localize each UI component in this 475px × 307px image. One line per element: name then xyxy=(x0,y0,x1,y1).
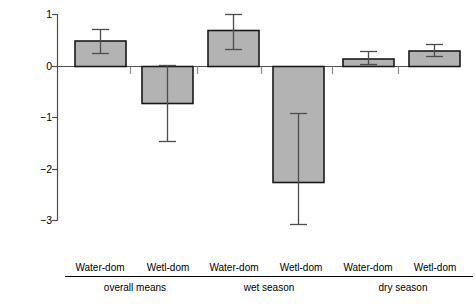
bar-group-wet-water-dom xyxy=(208,14,259,67)
bar-group-overall-water-dom xyxy=(75,29,126,67)
bar-group-overall-wetl-dom xyxy=(142,65,193,142)
x-group-label-overall-means: overall means xyxy=(65,282,205,293)
group-rule-dry-season xyxy=(333,276,473,277)
x-group-label-wet-season: wet season xyxy=(199,282,339,293)
bar-group-dry-wetl-dom xyxy=(409,44,460,67)
x-category-label-dry-wetl-dom: Wetl-dom xyxy=(395,262,475,273)
bar-group-wet-wetl-dom xyxy=(273,67,324,225)
bar-group-dry-water-dom xyxy=(343,51,394,67)
group-rule-wet-season xyxy=(199,276,339,277)
group-rule-overall-means xyxy=(65,276,205,277)
x-group-label-dry-season: dry season xyxy=(333,282,473,293)
